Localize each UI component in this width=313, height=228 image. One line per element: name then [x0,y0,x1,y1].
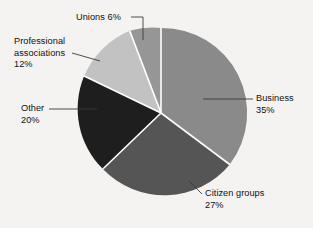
pie-label-professional-associations: Professional associations 12% [14,36,65,71]
pie-label-business-value: 35% [256,105,294,117]
pie-label-business: Business 35% [256,93,294,116]
pie-label-citizen-groups-value: 27% [205,200,264,212]
pie-label-citizen-groups-name: Citizen groups [205,188,264,200]
pie-label-citizen-groups: Citizen groups 27% [205,188,264,211]
pie-label-professional-associations-value: 12% [14,59,65,71]
pie-label-unions-text: Unions 6% [76,12,121,24]
pie-label-other: Other 20% [21,103,44,126]
pie-label-professional-associations-line1: Professional [14,36,65,48]
pie-label-unions: Unions 6% [76,12,121,24]
pie-label-business-name: Business [256,93,294,105]
pie-label-professional-associations-line2: associations [14,48,65,60]
pie-label-other-name: Other [21,103,44,115]
pie-chart-figure: Unions 6% Professional associations 12% … [0,0,313,228]
pie-label-other-value: 20% [21,115,44,127]
